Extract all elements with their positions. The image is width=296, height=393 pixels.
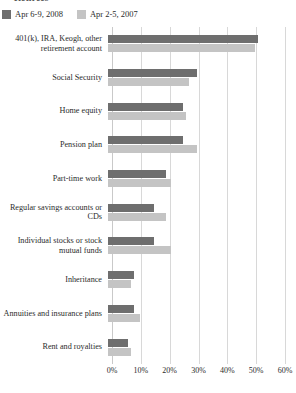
bar-row-label: Inheritance — [0, 275, 108, 285]
legend-label-2007: Apr 2-5, 2007 — [90, 9, 138, 19]
bar — [108, 78, 189, 86]
bar — [108, 145, 197, 153]
chart-legend: Apr 6-9, 2008 Apr 2-5, 2007 — [2, 9, 138, 19]
bar-row: 401(k), IRA, Keogh, other retirement acc… — [0, 27, 296, 61]
bar-rows: 401(k), IRA, Keogh, other retirement acc… — [0, 27, 296, 364]
bar — [108, 112, 186, 120]
x-axis-tick-label: 40% — [220, 366, 235, 375]
bar-group — [108, 330, 288, 364]
bar — [108, 170, 166, 178]
legend-swatch-2008 — [2, 10, 11, 19]
bar-group — [108, 128, 288, 162]
plot-area: 401(k), IRA, Keogh, other retirement acc… — [0, 27, 296, 367]
legend-label-2008: Apr 6-9, 2008 — [15, 9, 63, 19]
bar-group — [108, 229, 288, 263]
legend-item: Apr 6-9, 2008 — [2, 9, 63, 19]
x-axis-tick-label: 60% — [278, 366, 293, 375]
x-axis-tick-label: 0% — [107, 366, 118, 375]
bar — [108, 136, 183, 144]
x-axis: 0%10%20%30%40%50%60% — [112, 366, 285, 380]
bar-group — [108, 297, 288, 331]
bar-row-label: 401(k), IRA, Keogh, other retirement acc… — [0, 34, 108, 53]
bar-row-label: Individual stocks or stock mutual funds — [0, 236, 108, 255]
bar — [108, 204, 154, 212]
bar-row-label: Rent and royalties — [0, 342, 108, 352]
x-axis-tick-label: 30% — [191, 366, 206, 375]
bar — [108, 314, 140, 322]
bar-row: Home equity — [0, 94, 296, 128]
bar-row: Part-time work — [0, 162, 296, 196]
bar-row-label: Regular savings accounts or CDs — [0, 203, 108, 222]
bar-group — [108, 195, 288, 229]
legend-item: Apr 2-5, 2007 — [77, 9, 138, 19]
bar — [108, 339, 128, 347]
bar-row: Inheritance — [0, 263, 296, 297]
bar-row-label: Home equity — [0, 106, 108, 116]
bar-group — [108, 94, 288, 128]
bar-row: Pension plan — [0, 128, 296, 162]
bar-row: Annuities and insurance plans — [0, 297, 296, 331]
bar — [108, 280, 131, 288]
x-axis-tick-label: 10% — [133, 366, 148, 375]
legend-swatch-2007 — [77, 10, 86, 19]
bar-row: Rent and royalties — [0, 330, 296, 364]
bar — [108, 179, 171, 187]
bar-row: Regular savings accounts or CDs — [0, 195, 296, 229]
bar — [108, 237, 154, 245]
bar-row: Social Security — [0, 61, 296, 95]
bar — [108, 305, 134, 313]
bar — [108, 69, 197, 77]
bar — [108, 213, 166, 221]
bar-group — [108, 263, 288, 297]
bar — [108, 44, 255, 52]
bar-row-label: Pension plan — [0, 140, 108, 150]
bar-row-label: Part-time work — [0, 174, 108, 184]
retirees-bar-chart: Retirees Apr 6-9, 2008 Apr 2-5, 2007 401… — [0, 0, 296, 393]
chart-title: Retirees — [14, 0, 49, 3]
bar-row-label: Social Security — [0, 73, 108, 83]
bar — [108, 35, 258, 43]
bar — [108, 246, 171, 254]
bar-group — [108, 61, 288, 95]
bar — [108, 271, 134, 279]
x-axis-tick-label: 20% — [162, 366, 177, 375]
bar — [108, 348, 131, 356]
bar-group — [108, 162, 288, 196]
bar-group — [108, 27, 288, 61]
bar-row: Individual stocks or stock mutual funds — [0, 229, 296, 263]
x-axis-tick-label: 50% — [249, 366, 264, 375]
bar — [108, 103, 183, 111]
bar-row-label: Annuities and insurance plans — [0, 309, 108, 319]
